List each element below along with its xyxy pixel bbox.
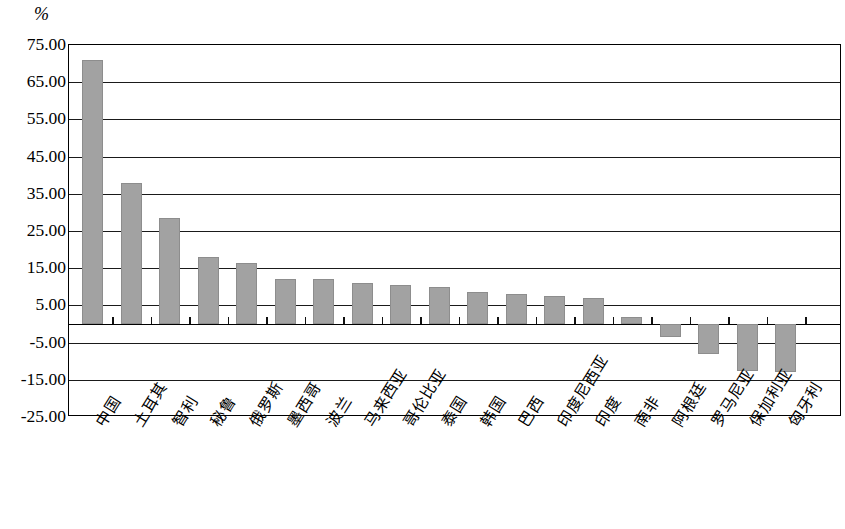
y-axis-tick-label: 25.00 [0, 220, 66, 241]
y-axis-tick-label: 75.00 [0, 34, 66, 55]
bar [544, 296, 565, 324]
x-axis-tick [497, 317, 499, 324]
bar [82, 60, 103, 324]
x-axis-category-labels: 中国土耳其智利秘鲁俄罗斯墨西哥波兰马来西亚哥伦比亚泰国韩国巴西印度尼西亚印度南非… [68, 418, 841, 529]
gridline [69, 305, 840, 306]
y-axis-tick-labels: 75.0065.0055.0045.0035.0025.0015.005.00-… [0, 0, 66, 529]
x-axis-tick [690, 317, 692, 324]
y-axis-tick-label: 15.00 [0, 257, 66, 278]
bar [429, 287, 450, 324]
bar [121, 183, 142, 324]
x-axis-tick [151, 317, 153, 324]
x-axis-tick [651, 317, 653, 324]
x-axis-tick [382, 317, 384, 324]
y-axis-tick-label: 55.00 [0, 108, 66, 129]
bar [506, 294, 527, 324]
bar-chart-figure: % 75.0065.0055.0045.0035.0025.0015.005.0… [0, 0, 845, 529]
bar [583, 298, 604, 324]
x-axis-tick [266, 317, 268, 324]
bar [467, 292, 488, 324]
x-axis-tick [613, 317, 615, 324]
bar [352, 283, 373, 324]
y-axis-tick-label: -5.00 [0, 331, 66, 352]
gridline [69, 231, 840, 232]
bar [660, 324, 681, 337]
x-axis-tick [228, 317, 230, 324]
x-axis-tick [305, 317, 307, 324]
gridline [69, 268, 840, 269]
gridline [69, 194, 840, 195]
bar [159, 218, 180, 324]
gridline [69, 119, 840, 120]
plot-area [68, 44, 841, 416]
x-axis-tick [189, 317, 191, 324]
x-axis-tick [420, 317, 422, 324]
x-axis-tick [343, 317, 345, 324]
x-axis-tick [574, 317, 576, 324]
bar [698, 324, 719, 354]
bar [275, 279, 296, 324]
y-axis-tick-label: -15.00 [0, 368, 66, 389]
bar [198, 257, 219, 324]
bar [236, 263, 257, 324]
y-axis-tick-label: 5.00 [0, 294, 66, 315]
x-axis-tick [536, 317, 538, 324]
gridline [69, 82, 840, 83]
bar [313, 279, 334, 324]
x-axis-tick [728, 317, 730, 324]
x-axis-tick [805, 317, 807, 324]
zero-axis-line [69, 324, 840, 325]
y-axis-tick-label: -25.00 [0, 406, 66, 427]
gridline [69, 157, 840, 158]
x-axis-tick [112, 317, 114, 324]
x-axis-tick [459, 317, 461, 324]
y-axis-tick-label: 65.00 [0, 71, 66, 92]
bar [621, 317, 642, 324]
gridline [69, 380, 840, 381]
bar [390, 285, 411, 324]
y-axis-tick-label: 35.00 [0, 182, 66, 203]
x-axis-tick [767, 317, 769, 324]
gridline [69, 343, 840, 344]
y-axis-tick-label: 45.00 [0, 145, 66, 166]
